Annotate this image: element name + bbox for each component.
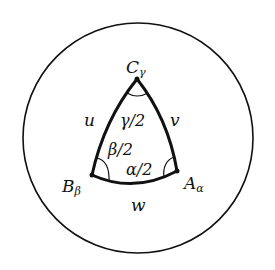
vertex-label-b: Bβ	[61, 176, 81, 198]
angle-arc-gamma	[127, 93, 148, 96]
vertex-label-a: Aα	[182, 173, 204, 195]
edge-label-u: u	[84, 110, 95, 130]
vertex-label-c: Cγ	[126, 57, 146, 79]
angle-label-gamma: γ/2	[120, 111, 145, 130]
spherical-triangle-diagram: Cγ Bβ Aα u v w γ/2 β/2 α/2	[0, 0, 275, 270]
angle-label-alpha: α/2	[126, 160, 152, 179]
edge-label-v: v	[170, 110, 180, 130]
vertex-dot-b	[90, 173, 95, 178]
vertex-dot-a	[175, 169, 180, 174]
edge-label-w: w	[131, 195, 146, 215]
angle-label-beta: β/2	[107, 140, 133, 159]
